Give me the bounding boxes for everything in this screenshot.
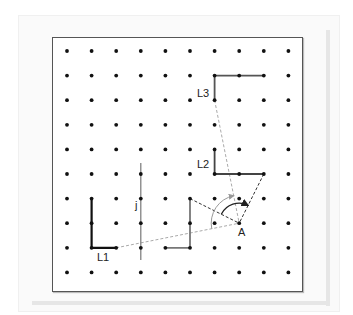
grid-dot [213,123,217,127]
grid-dot [237,221,241,225]
grid-dot [188,49,192,53]
grid-dot [188,74,192,78]
grid-dot [164,172,168,176]
label-line-j: j [134,199,137,211]
grid-dot [188,197,192,201]
label-L3: L3 [197,87,209,99]
grid-dot [262,123,266,127]
grid-dot [213,148,217,152]
grid-dot [262,197,266,201]
grid-dot [164,271,168,275]
grid-dots [65,49,290,274]
grid-dot [65,148,69,152]
grid-dot [213,246,217,250]
geoboard-diagram: L1 L2 L3 j A [0,0,353,315]
grid-dot [114,49,118,53]
grid-dot [287,246,291,250]
grid-dot [65,221,69,225]
dashed-ray-dark [190,199,239,224]
dashed-ray-dark [239,174,264,223]
grid-dot [237,74,241,78]
rotation-arc-dark [221,203,248,214]
grid-dot [213,197,217,201]
grid-dot [90,98,94,102]
grid-dot [90,172,94,176]
grid-dot [188,271,192,275]
grid-dot [262,49,266,53]
label-L2: L2 [197,158,209,170]
grid-dot [90,74,94,78]
grid-dot [237,148,241,152]
grid-dot [262,172,266,176]
grid-dot [287,123,291,127]
shape-L3 [215,76,264,101]
grid-dot [287,49,291,53]
grid-dot [90,49,94,53]
grid-dot [139,74,143,78]
grid-dot [114,271,118,275]
grid-dot [262,98,266,102]
grid-dot [139,221,143,225]
grid-dot [139,172,143,176]
grid-dot [287,148,291,152]
grid-dot [65,74,69,78]
grid-dot [114,98,118,102]
grid-dot [262,246,266,250]
grid-dot [287,172,291,176]
grid-dot [65,123,69,127]
grid-dot [262,271,266,275]
grid-dot [114,197,118,201]
grid-dot [65,271,69,275]
grid-dot [114,74,118,78]
grid-dot [188,221,192,225]
grid-dot [139,98,143,102]
grid-dot [139,271,143,275]
grid-dot [287,98,291,102]
grid-dot [90,246,94,250]
grid-dot [188,246,192,250]
grid-dot [237,123,241,127]
grid-dot [287,74,291,78]
grid-dot [188,98,192,102]
grid-dot [164,148,168,152]
grid-dot [237,197,241,201]
grid-dot [213,221,217,225]
shape-L1 [92,199,117,248]
grid-dot [114,148,118,152]
grid-dot [139,197,143,201]
grid-dot [65,98,69,102]
grid-dot [90,123,94,127]
grid-dot [237,271,241,275]
grid-dot [262,74,266,78]
grid-dot [213,49,217,53]
grid-dot [164,221,168,225]
shape-L2 [215,149,264,174]
grid-dot [164,197,168,201]
grid-dot [287,197,291,201]
grid-dot [237,98,241,102]
grid-dot [65,49,69,53]
label-point-A: A [238,226,246,238]
grid-dot [164,246,168,250]
shape-L-middle [165,199,190,248]
grid-dot [164,74,168,78]
grid-dot [237,49,241,53]
grid-dot [114,172,118,176]
label-L1: L1 [97,251,109,263]
grid-dot [188,172,192,176]
grid-dot [164,49,168,53]
grid-dot [114,123,118,127]
grid-dot [213,74,217,78]
grid-dot [139,246,143,250]
grid-dot [213,98,217,102]
grid-dot [262,221,266,225]
grid-dot [287,221,291,225]
grid-dot [65,172,69,176]
grid-dot [164,123,168,127]
grid-dot [237,172,241,176]
grid-dot [262,148,266,152]
grid-dot [90,271,94,275]
grid-dot [139,49,143,53]
grid-dot [114,221,118,225]
grid-dot [139,148,143,152]
